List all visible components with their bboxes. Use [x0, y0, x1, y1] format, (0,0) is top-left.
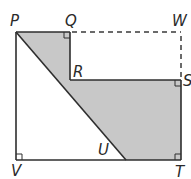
label-U: U — [98, 141, 109, 159]
right-angle-V — [16, 154, 22, 160]
label-P: P — [10, 12, 20, 30]
label-T: T — [175, 163, 186, 179]
label-S: S — [183, 72, 191, 90]
label-Q: Q — [65, 12, 77, 30]
label-W: W — [172, 12, 188, 30]
label-R: R — [73, 63, 83, 81]
geometry-diagram: P Q W R S U V T — [0, 0, 191, 179]
label-V: V — [11, 162, 23, 179]
